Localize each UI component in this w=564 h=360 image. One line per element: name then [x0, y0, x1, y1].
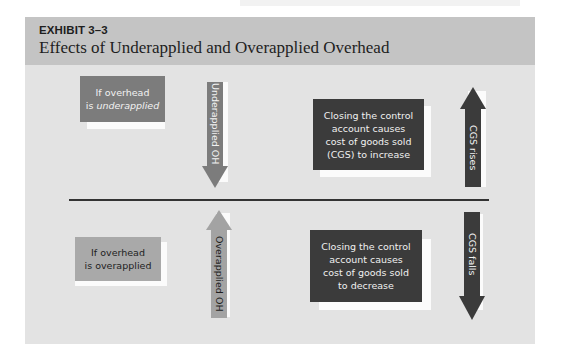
effect-line: account causes	[321, 253, 410, 266]
overapplied-oh-arrow-up-icon: Overapplied OH	[206, 210, 232, 320]
underapplied-condition-box: If overhead is underapplied	[80, 76, 165, 122]
cgs-falls-arrow-down-icon: CGS falls	[459, 212, 485, 324]
condition-line2: is underapplied	[86, 99, 159, 112]
effect-line: account causes	[324, 122, 413, 135]
effect-line: Closing the control	[321, 240, 410, 253]
condition-line1: If overhead	[86, 86, 159, 99]
underapplied-oh-label: Underapplied OH	[210, 83, 221, 164]
effect-line: cost of goods sold	[321, 266, 410, 279]
effect-line: to decrease	[321, 279, 410, 292]
underapplied-oh-arrow-down-icon: Underapplied OH	[206, 82, 228, 188]
exhibit-title: Effects of Underapplied and Overapplied …	[39, 38, 389, 58]
cgs-rises-label: CGS rises	[468, 125, 479, 170]
exhibit-header: EXHIBIT 3–3 Effects of Underapplied and …	[25, 17, 535, 65]
condition-line1: If overhead	[85, 246, 152, 259]
cgs-falls-label: CGS falls	[467, 233, 478, 275]
page-bleed-top	[240, 0, 520, 6]
effect-line: (CGS) to increase	[324, 148, 413, 161]
cgs-rises-arrow-up-icon: CGS rises	[460, 87, 486, 189]
exhibit-label: EXHIBIT 3–3	[39, 24, 108, 36]
cgs-decrease-box: Closing the control account causes cost …	[310, 230, 422, 302]
condition-line2: is overapplied	[85, 259, 152, 272]
overapplied-condition-box: If overhead is overapplied	[75, 237, 161, 281]
exhibit-frame: EXHIBIT 3–3 Effects of Underapplied and …	[25, 17, 535, 344]
effect-line: Closing the control	[324, 109, 413, 122]
section-divider	[69, 199, 489, 201]
underapplied-emphasis: underapplied	[96, 100, 159, 111]
cgs-increase-box: Closing the control account causes cost …	[313, 99, 424, 170]
overapplied-oh-label: Overapplied OH	[214, 236, 225, 312]
effect-line: cost of goods sold	[324, 135, 413, 148]
